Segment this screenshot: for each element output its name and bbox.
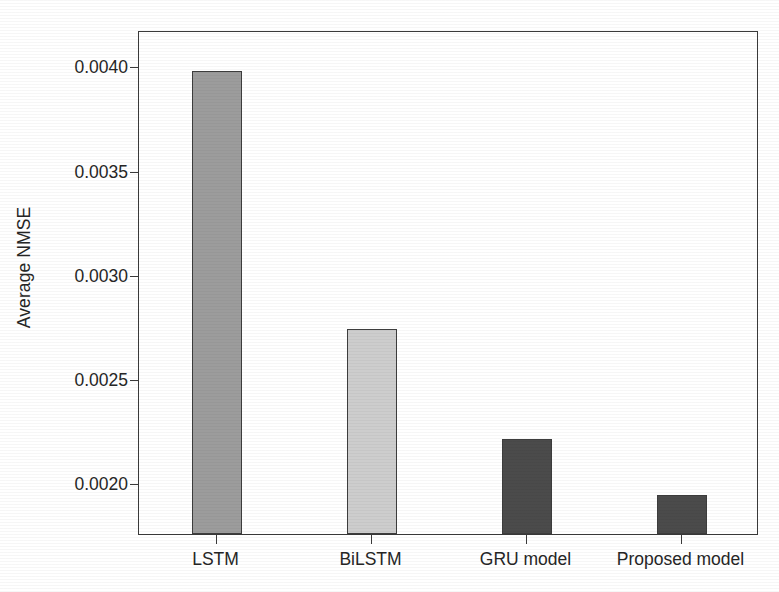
- bar-bilstm: [347, 329, 397, 534]
- y-axis-tick-label: 0.0035: [10, 161, 128, 182]
- x-axis-tick: [681, 535, 682, 544]
- bar-chart-figure: Average NMSE 0.00200.00250.00300.00350.0…: [0, 0, 779, 592]
- bar-proposed-model: [657, 495, 707, 534]
- y-axis-tick-label: 0.0020: [10, 473, 128, 494]
- x-axis-tick: [526, 535, 527, 544]
- y-axis-tick-label: 0.0040: [10, 57, 128, 78]
- y-axis-tick-label: 0.0025: [10, 369, 128, 390]
- x-axis-tick-label: Proposed model: [581, 549, 779, 570]
- y-axis-tick-label: 0.0030: [10, 265, 128, 286]
- bar-gru-model: [502, 439, 552, 534]
- bar-lstm: [192, 71, 242, 534]
- x-axis-tick: [371, 535, 372, 544]
- plot-area: [138, 31, 758, 535]
- x-axis-tick: [216, 535, 217, 544]
- bar-series: [139, 32, 757, 534]
